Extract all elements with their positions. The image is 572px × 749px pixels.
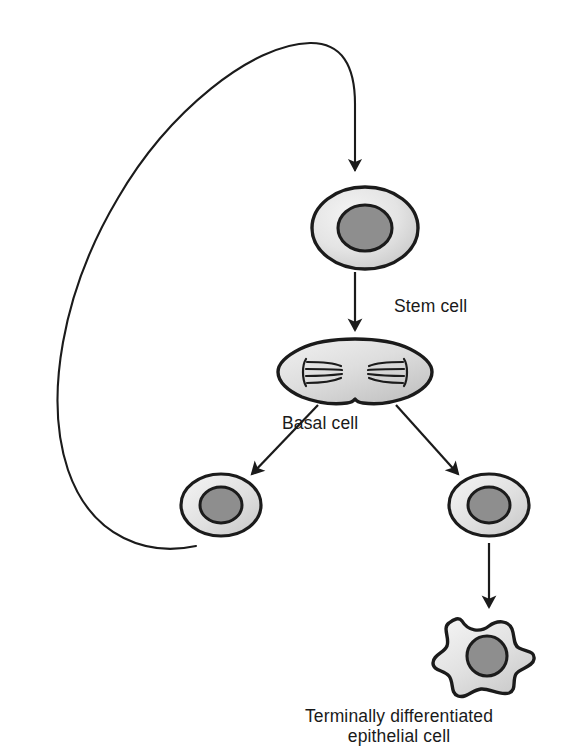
daughter-cell-left-nucleus <box>200 487 242 523</box>
stem-cell-nucleus <box>338 205 392 251</box>
daughter-cell-right <box>449 474 529 536</box>
terminal-cell-nucleus <box>467 636 507 676</box>
basal-cell-dividing <box>278 339 432 404</box>
dividing-cell-membrane <box>278 339 432 404</box>
cell-lineage-diagram: Stem cell Basal <box>0 0 572 749</box>
stem-cell-label: Stem cell <box>394 296 467 316</box>
diagram-canvas: Stem cell Basal <box>0 0 572 749</box>
terminal-cell-caption-line-1: Terminally differentiated <box>305 706 493 726</box>
terminal-cell-caption-line-2: epithelial cell <box>348 726 450 746</box>
arrow-self-renewal-feedback <box>58 43 355 549</box>
daughter-cell-right-nucleus <box>468 487 510 523</box>
arrow-basal-to-right-daughter <box>396 405 458 474</box>
terminal-epithelial-cell <box>433 619 534 697</box>
daughter-cell-left <box>181 474 261 536</box>
stem-cell <box>312 187 418 269</box>
